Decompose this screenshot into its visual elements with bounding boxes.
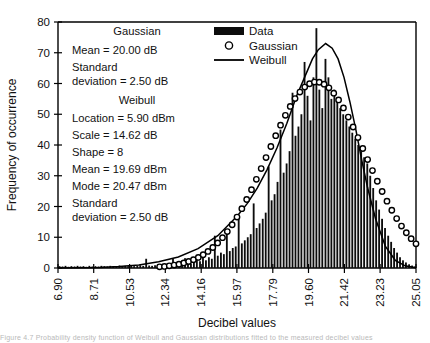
gaussian-annotation-line-0: Mean = 20.00 dB bbox=[72, 44, 158, 56]
legend-label-data: Data bbox=[249, 25, 274, 37]
filled-rect-icon bbox=[214, 27, 244, 35]
gaussian-marker bbox=[326, 85, 331, 90]
histogram-bar bbox=[271, 200, 273, 268]
y-tick-label: 60 bbox=[37, 78, 50, 90]
histogram-bar bbox=[328, 77, 330, 268]
histogram-bar bbox=[378, 210, 380, 268]
histogram-bar bbox=[295, 136, 297, 268]
histogram-bar bbox=[244, 240, 246, 268]
gaussian-marker bbox=[220, 235, 225, 240]
gaussian-marker bbox=[341, 105, 346, 110]
histogram-bar bbox=[336, 102, 338, 268]
histogram-bar bbox=[310, 120, 312, 268]
gaussian-marker bbox=[254, 177, 259, 182]
histogram-bar bbox=[280, 130, 282, 268]
histogram-bar bbox=[313, 77, 315, 268]
histogram-bar bbox=[205, 260, 207, 268]
y-tick-label: 40 bbox=[37, 139, 50, 151]
x-tick-group: 6.908.7110.5312.3414.1615.9717.7919.6021… bbox=[52, 264, 422, 307]
gaussian-marker bbox=[370, 168, 375, 173]
weibull-annotation-line-5: Standard bbox=[72, 197, 117, 209]
y-tick-label: 70 bbox=[37, 47, 50, 59]
histogram-bar bbox=[289, 151, 291, 268]
gaussian-marker bbox=[288, 104, 293, 109]
histogram-bar bbox=[339, 108, 341, 268]
histogram-bar bbox=[330, 99, 332, 268]
gaussian-marker bbox=[375, 179, 380, 184]
gaussian-marker bbox=[244, 197, 249, 202]
histogram-bar bbox=[304, 62, 306, 268]
histogram-bar bbox=[298, 127, 300, 268]
histogram-bar bbox=[199, 261, 201, 268]
gaussian-marker bbox=[394, 216, 399, 221]
x-tick-label: 23.23 bbox=[374, 278, 386, 307]
gaussian-marker bbox=[355, 135, 360, 140]
weibull-annotation-line-2: Shape = 8 bbox=[72, 146, 123, 158]
histogram-bar bbox=[139, 265, 141, 268]
weibull-annotation-line-6: deviation = 2.50 dB bbox=[72, 211, 168, 223]
gaussian-marker bbox=[268, 144, 273, 149]
histogram-bar bbox=[253, 203, 255, 268]
histogram-bar bbox=[268, 167, 270, 268]
y-tick-label: 50 bbox=[37, 108, 50, 120]
histogram-bar bbox=[354, 139, 356, 268]
x-tick-label: 19.60 bbox=[303, 278, 315, 307]
histogram-bar bbox=[142, 266, 144, 268]
histogram-bar bbox=[381, 219, 383, 268]
x-tick-label: 15.97 bbox=[231, 278, 243, 307]
gaussian-marker bbox=[365, 157, 370, 162]
histogram-bar bbox=[369, 176, 371, 268]
gaussian-marker bbox=[389, 208, 394, 213]
gaussian-marker bbox=[215, 240, 220, 245]
figure-container: 01020304050607080 6.908.7110.5312.3414.1… bbox=[0, 0, 430, 343]
histogram-bar bbox=[226, 231, 228, 268]
gaussian-marker bbox=[321, 82, 326, 87]
histogram-bar bbox=[262, 219, 264, 268]
gaussian-marker bbox=[408, 236, 413, 241]
gaussian-marker bbox=[263, 155, 268, 160]
weibull-annotation-line-4: Mode = 20.47 dBm bbox=[72, 180, 167, 192]
histogram-bar bbox=[292, 93, 294, 268]
gaussian-annotation-heading: Gaussian bbox=[113, 25, 160, 37]
gaussian-annotation-line-2: deviation = 2.50 dB bbox=[72, 75, 168, 87]
weibull-annotation-line-1: Scale = 14.62 dB bbox=[72, 129, 158, 141]
gaussian-marker bbox=[413, 241, 418, 246]
histogram-bar bbox=[300, 114, 302, 268]
x-axis-title: Decibel values bbox=[198, 316, 276, 330]
x-tick-label: 12.34 bbox=[159, 277, 171, 306]
histogram-bar bbox=[136, 266, 138, 268]
x-tick-label: 10.53 bbox=[124, 278, 136, 307]
gaussian-marker bbox=[292, 96, 297, 101]
histogram-bar bbox=[375, 200, 377, 268]
gaussian-marker bbox=[297, 89, 302, 94]
histogram-bar bbox=[151, 266, 153, 268]
figure-caption: Figure 4.7 Probability density function … bbox=[0, 334, 430, 343]
gaussian-marker bbox=[331, 90, 336, 95]
histogram-bar bbox=[333, 90, 335, 268]
x-tick-label: 6.90 bbox=[52, 278, 64, 300]
gaussian-marker bbox=[336, 97, 341, 102]
histogram-bar bbox=[366, 163, 368, 268]
histogram-bar bbox=[220, 253, 222, 268]
gaussian-marker bbox=[399, 223, 404, 228]
histogram-bar bbox=[307, 96, 309, 268]
histogram-bar bbox=[318, 90, 320, 268]
histogram-bar bbox=[241, 243, 243, 268]
y-tick-label: 30 bbox=[37, 170, 50, 182]
y-tick-label: 0 bbox=[44, 262, 50, 274]
histogram-chart: 01020304050607080 6.908.7110.5312.3414.1… bbox=[0, 0, 430, 343]
histogram-bar bbox=[321, 108, 323, 268]
axes-group bbox=[58, 22, 416, 268]
gaussian-marker bbox=[360, 146, 365, 151]
histogram-bar bbox=[286, 163, 288, 268]
gaussian-marker bbox=[249, 187, 254, 192]
y-tick-label: 80 bbox=[37, 16, 50, 28]
histogram-bar bbox=[360, 151, 362, 268]
weibull-annotation-line-0: Location = 5.90 dBm bbox=[72, 112, 175, 124]
histogram-bar bbox=[259, 223, 261, 268]
x-tick-label: 14.16 bbox=[195, 278, 207, 307]
y-tick-label: 10 bbox=[37, 231, 50, 243]
weibull-annotation: Weibull Location = 5.90 dBm Scale = 14.6… bbox=[72, 94, 175, 223]
histogram-bar bbox=[217, 256, 219, 268]
gaussian-marker bbox=[278, 122, 283, 127]
